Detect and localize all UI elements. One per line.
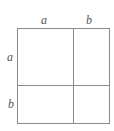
top-label-a: a [41, 14, 47, 26]
horizontal-divider [17, 85, 110, 86]
top-label-b: b [86, 14, 92, 26]
left-label-b: b [8, 98, 14, 110]
vertical-divider [73, 28, 74, 124]
left-label-a: a [7, 51, 13, 63]
outer-square [17, 28, 110, 124]
